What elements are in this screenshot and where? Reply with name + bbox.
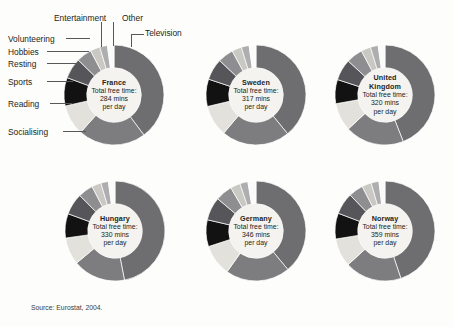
total-free-time-label: Total free time: [362, 91, 407, 99]
chart-canvas: TelevisionSocialisingReadingSportsRestin… [0, 0, 453, 327]
leader-television-stem [131, 34, 132, 47]
donut-chart-sweden: TelevisionSocialisingReadingSportsRestin… [203, 42, 309, 148]
donut-chart-germany: TelevisionSocialisingReadingSportsRestin… [203, 178, 309, 284]
leader-socialising [63, 131, 86, 132]
country-name: Germany [240, 215, 272, 223]
total-free-time-value: 359 mins [371, 231, 399, 239]
label-entertainment: Entertainment [54, 13, 106, 23]
total-free-time-value: 320 mins [371, 99, 399, 107]
country-name: Sweden [242, 79, 270, 87]
leader-hobbies [47, 51, 89, 52]
label-socialising: Socialising [8, 127, 48, 137]
donut-chart-norway: TelevisionSocialisingReadingSportsRestin… [332, 178, 438, 284]
label-television: Television [145, 28, 182, 38]
source-note: Source: Eurostat, 2004. [31, 304, 102, 311]
per-day-label: per day [245, 239, 268, 247]
donut-chart-united-kingdom: TelevisionSocialisingReadingSportsRestin… [332, 42, 438, 148]
leader-resting [47, 63, 81, 64]
donut-center-label-united-kingdom: UnitedKingdomTotal free time:320 minsper… [358, 68, 413, 123]
donut-center-label-hungary: HungaryTotal free time:330 minsper day [88, 204, 143, 259]
leader-volunteering [66, 38, 90, 39]
total-free-time-value: 317 mins [242, 95, 270, 103]
donut-center-label-norway: NorwayTotal free time:359 minsper day [358, 204, 413, 259]
total-free-time-value: 346 mins [242, 231, 270, 239]
total-free-time-value: 284 mins [100, 95, 128, 103]
label-reading: Reading [8, 99, 39, 109]
per-day-label: per day [374, 108, 397, 116]
label-resting: Resting [8, 59, 36, 69]
label-volunteering: Volunteering [8, 34, 55, 44]
total-free-time-label: Total free time: [92, 223, 137, 231]
leader-sports [47, 81, 73, 82]
label-sports: Sports [8, 77, 32, 87]
donut-center-label-sweden: SwedenTotal free time:317 minsper day [229, 68, 284, 123]
total-free-time-label: Total free time: [233, 223, 278, 231]
per-day-label: per day [103, 103, 126, 111]
leader-reading [50, 103, 72, 104]
country-name: Hungary [100, 215, 130, 223]
total-free-time-label: Total free time: [233, 87, 278, 95]
country-name: Norway [372, 215, 399, 223]
leader-other [113, 22, 114, 46]
label-hobbies: Hobbies [8, 47, 39, 57]
donut-center-label-france: FranceTotal free time:284 minsper day [87, 68, 142, 123]
donut-chart-hungary: TelevisionSocialisingReadingSportsRestin… [62, 178, 168, 284]
per-day-label: per day [245, 103, 268, 111]
donut-center-label-germany: GermanyTotal free time:346 minsper day [229, 204, 284, 259]
country-name: France [102, 79, 126, 87]
country-name-line2: Kingdom [369, 83, 401, 91]
per-day-label: per day [104, 239, 127, 247]
total-free-time-label: Total free time: [362, 223, 407, 231]
total-free-time-value: 330 mins [101, 231, 129, 239]
label-other: Other [122, 13, 143, 23]
donut-chart-france: TelevisionSocialisingReadingSportsRestin… [61, 42, 167, 148]
leader-television [131, 34, 144, 35]
leader-entertainment [101, 22, 102, 47]
per-day-label: per day [374, 239, 397, 247]
total-free-time-label: Total free time: [91, 87, 136, 95]
